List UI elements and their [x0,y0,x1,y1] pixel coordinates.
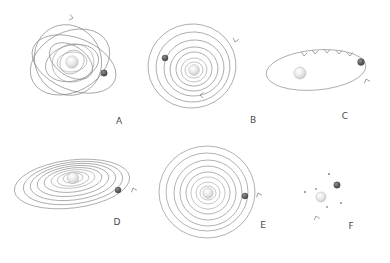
panel-label-e: E [260,220,266,230]
central-star-icon [294,67,306,79]
central-star-icon [66,56,78,68]
planet-marker-icon [162,55,168,61]
panel-label-b: B [250,115,256,125]
debris-dot [326,206,328,208]
panel-label-c: C [342,111,348,121]
figure-canvas: ABCDEF [0,0,390,263]
central-star-icon [203,188,213,198]
central-star-icon [67,172,78,183]
panel-label-f: F [348,221,353,231]
debris-dot [315,188,317,190]
panel-label-d: D [114,217,121,227]
debris-dot [304,191,306,193]
planet-marker-icon [115,187,121,193]
debris-dot [340,202,342,204]
planet-marker-icon [358,59,365,66]
debris-dot [328,173,330,175]
planet-marker-icon [334,182,340,188]
planetary-architecture-figure: ABCDEF [0,0,390,263]
central-star-icon [189,65,200,76]
planet-marker-icon [242,193,248,199]
panel-label-a: A [116,116,123,126]
planet-marker-icon [101,70,107,76]
central-star-icon [316,192,326,202]
